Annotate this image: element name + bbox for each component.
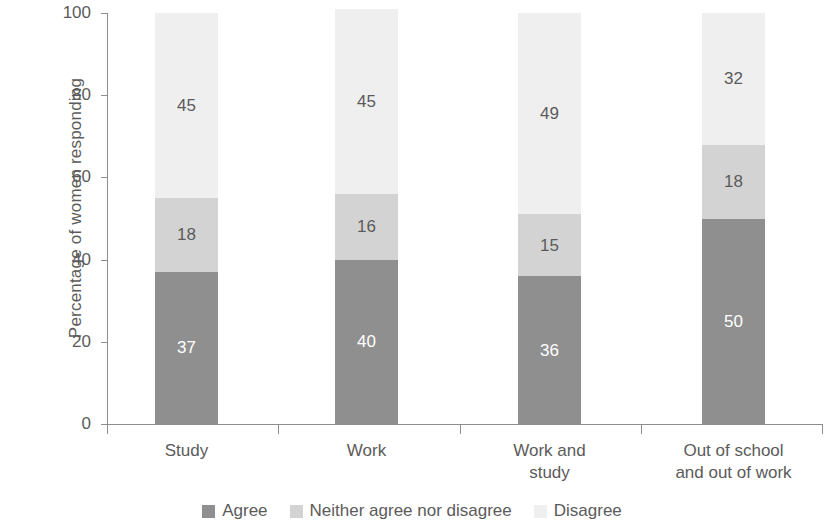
bar-value-label: 45: [357, 93, 376, 110]
y-axis-tick-mark: [101, 342, 108, 343]
bar-value-label: 45: [177, 97, 196, 114]
x-axis-tick-label-line: and out of work: [644, 462, 824, 484]
legend-item[interactable]: Agree: [202, 501, 267, 521]
bar-value-label: 18: [724, 173, 743, 190]
bar-segment[interactable]: 32: [702, 13, 765, 145]
x-axis-tick-mark: [107, 425, 108, 434]
x-axis-tick-label: Work: [277, 440, 457, 462]
y-axis-tick-label: 0: [45, 414, 91, 434]
bar[interactable]: 401645: [335, 9, 398, 424]
y-axis-tick-mark: [101, 177, 108, 178]
chart-legend: AgreeNeither agree nor disagreeDisagree: [0, 501, 824, 521]
x-axis-tick-label-line: study: [460, 462, 640, 484]
bar-value-label: 16: [357, 218, 376, 235]
bar-segment[interactable]: 37: [155, 272, 218, 424]
bar-segment[interactable]: 18: [702, 145, 765, 219]
bar-value-label: 36: [540, 342, 559, 359]
bar-value-label: 49: [540, 105, 559, 122]
y-axis-tick-label: 100: [45, 3, 91, 23]
x-axis-tick-label-line: Study: [97, 440, 277, 462]
bar-value-label: 18: [177, 226, 196, 243]
bar-segment[interactable]: 50: [702, 219, 765, 425]
bar[interactable]: 371845: [155, 13, 218, 424]
bar-segment[interactable]: 18: [155, 198, 218, 272]
legend-label: Disagree: [554, 501, 622, 521]
x-axis-line: [107, 424, 823, 425]
stacked-bar-chart: Percentage of women responding 020406080…: [0, 0, 824, 530]
bar-segment[interactable]: 45: [335, 9, 398, 194]
x-axis-tick-mark: [822, 425, 823, 434]
bar-value-label: 15: [540, 237, 559, 254]
legend-swatch-icon: [290, 505, 303, 518]
x-axis-tick-label: Out of schooland out of work: [644, 440, 824, 485]
bar-value-label: 40: [357, 333, 376, 350]
bar-segment[interactable]: 16: [335, 194, 398, 260]
bar[interactable]: 361549: [518, 13, 581, 424]
bar-segment[interactable]: 40: [335, 260, 398, 424]
x-axis-tick-mark: [641, 425, 642, 434]
bar-segment[interactable]: 36: [518, 276, 581, 424]
bar-value-label: 32: [724, 70, 743, 87]
legend-swatch-icon: [534, 505, 547, 518]
legend-swatch-icon: [202, 505, 215, 518]
legend-label: Neither agree nor disagree: [310, 501, 512, 521]
bar-segment[interactable]: 45: [155, 13, 218, 198]
x-axis-tick-mark: [460, 425, 461, 434]
bar-segment[interactable]: 49: [518, 13, 581, 214]
x-axis-tick-label: Study: [97, 440, 277, 462]
legend-item[interactable]: Disagree: [534, 501, 622, 521]
bar-value-label: 50: [724, 313, 743, 330]
bar-value-label: 37: [177, 339, 196, 356]
x-axis-tick-label: Work andstudy: [460, 440, 640, 485]
y-axis-tick-mark: [101, 13, 108, 14]
bar-segment[interactable]: 15: [518, 214, 581, 276]
legend-item[interactable]: Neither agree nor disagree: [290, 501, 512, 521]
x-axis-tick-label-line: Work and: [460, 440, 640, 462]
y-axis-tick-label: 60: [45, 167, 91, 187]
y-axis-tick-mark: [101, 95, 108, 96]
x-axis-tick-label-line: Out of school: [644, 440, 824, 462]
y-axis-tick-labels: 020406080100: [45, 0, 91, 530]
y-axis-tick-label: 40: [45, 250, 91, 270]
x-axis-tick-label-line: Work: [277, 440, 457, 462]
y-axis-tick-mark: [101, 260, 108, 261]
bar[interactable]: 501832: [702, 13, 765, 424]
y-axis-tick-label: 20: [45, 332, 91, 352]
x-axis-tick-mark: [278, 425, 279, 434]
y-axis-tick-label: 80: [45, 85, 91, 105]
legend-label: Agree: [222, 501, 267, 521]
